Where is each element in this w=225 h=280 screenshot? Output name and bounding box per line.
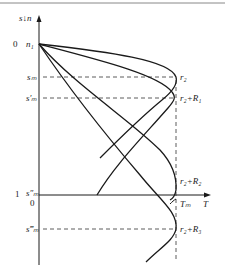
label-r2-R1: r₂+R₁ — [180, 93, 201, 103]
level-label-s-m-prime: s′ₘ — [26, 93, 37, 103]
level-label-s-m: sₘ — [27, 72, 37, 82]
vertical-axis-arrow-icon — [37, 15, 42, 22]
curve-r2-R1 — [39, 44, 174, 195]
curve-r2 — [39, 44, 176, 158]
horizontal-axis-label: T — [203, 199, 209, 209]
origin-top-label: n₁ — [26, 39, 34, 49]
level-label-s-m-triple: s‴ₘ — [26, 224, 39, 234]
label-r2-R2: r₂+R₂ — [180, 176, 201, 186]
label-r2-R3: r₂+R₃ — [180, 224, 201, 234]
horizontal-axis-arrow-icon — [204, 193, 211, 198]
level-label-s-m-double: s″ₘ — [26, 188, 39, 198]
label-T-m: Tₘ — [180, 199, 191, 209]
origin-top-value: 0 — [13, 39, 18, 49]
label-r2: r₂ — [180, 72, 187, 82]
origin-bottom-value: 0 — [30, 198, 35, 208]
one-value: 1 — [15, 189, 20, 199]
torque-slip-diagram: s↓n T 0 n₁ sₘ s′ₘ 1 s″ₘ 0 s‴ₘ r₂ r₂+R₁ r… — [0, 0, 225, 280]
vertical-axis-label: s↓n — [19, 13, 32, 23]
